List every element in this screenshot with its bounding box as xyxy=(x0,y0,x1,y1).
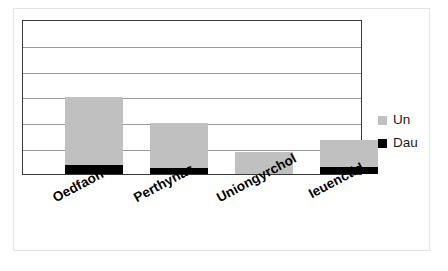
legend-label-un: Un xyxy=(393,113,410,127)
bar-chart: Oedfaon Perthynas Uniongyrchol Ieuenctid… xyxy=(0,0,448,271)
gray-swatch-icon xyxy=(378,116,387,125)
x-axis-category-labels: Oedfaon Perthynas Uniongyrchol Ieuenctid xyxy=(0,175,448,265)
bar-oedfaon[interactable] xyxy=(65,97,123,174)
chart-legend: Un Dau xyxy=(378,113,444,159)
legend-item-dau[interactable]: Dau xyxy=(378,136,444,150)
bar-segment-un[interactable] xyxy=(65,97,123,165)
plot-area xyxy=(22,20,362,175)
black-swatch-icon xyxy=(378,139,387,148)
bar-segment-un[interactable] xyxy=(320,140,378,167)
legend-item-un[interactable]: Un xyxy=(378,113,444,127)
legend-label-dau: Dau xyxy=(393,136,418,150)
bars-layer xyxy=(23,21,361,174)
bar-segment-un[interactable] xyxy=(150,123,208,168)
